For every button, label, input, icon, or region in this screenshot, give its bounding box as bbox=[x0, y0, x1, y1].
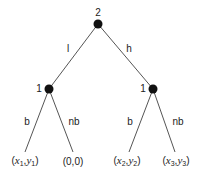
edge-h bbox=[98, 24, 153, 89]
leaf-payoff-2: (0,0) bbox=[63, 157, 84, 167]
left-node-player-label: 1 bbox=[36, 84, 42, 94]
edge-label-h: h bbox=[126, 44, 132, 54]
leaf-payoff-4: (x3,y3) bbox=[162, 155, 189, 169]
edge-label-right-b: b bbox=[127, 117, 133, 127]
leaf-payoff-3: (x2,y2) bbox=[113, 155, 140, 169]
game-tree-edges bbox=[0, 0, 203, 177]
left-decision-node bbox=[45, 85, 54, 94]
edge-label-left-b: b bbox=[24, 117, 30, 127]
edge-label-left-nb: nb bbox=[68, 117, 79, 127]
right-node-player-label: 1 bbox=[140, 84, 146, 94]
edge-label-right-nb: nb bbox=[172, 117, 183, 127]
root-player-label: 2 bbox=[95, 8, 101, 18]
leaf-payoff-1: (x1,y1) bbox=[11, 155, 38, 169]
edge-l bbox=[49, 24, 98, 89]
root-node bbox=[94, 20, 103, 29]
right-decision-node bbox=[149, 85, 158, 94]
edge-label-l: l bbox=[67, 44, 69, 54]
